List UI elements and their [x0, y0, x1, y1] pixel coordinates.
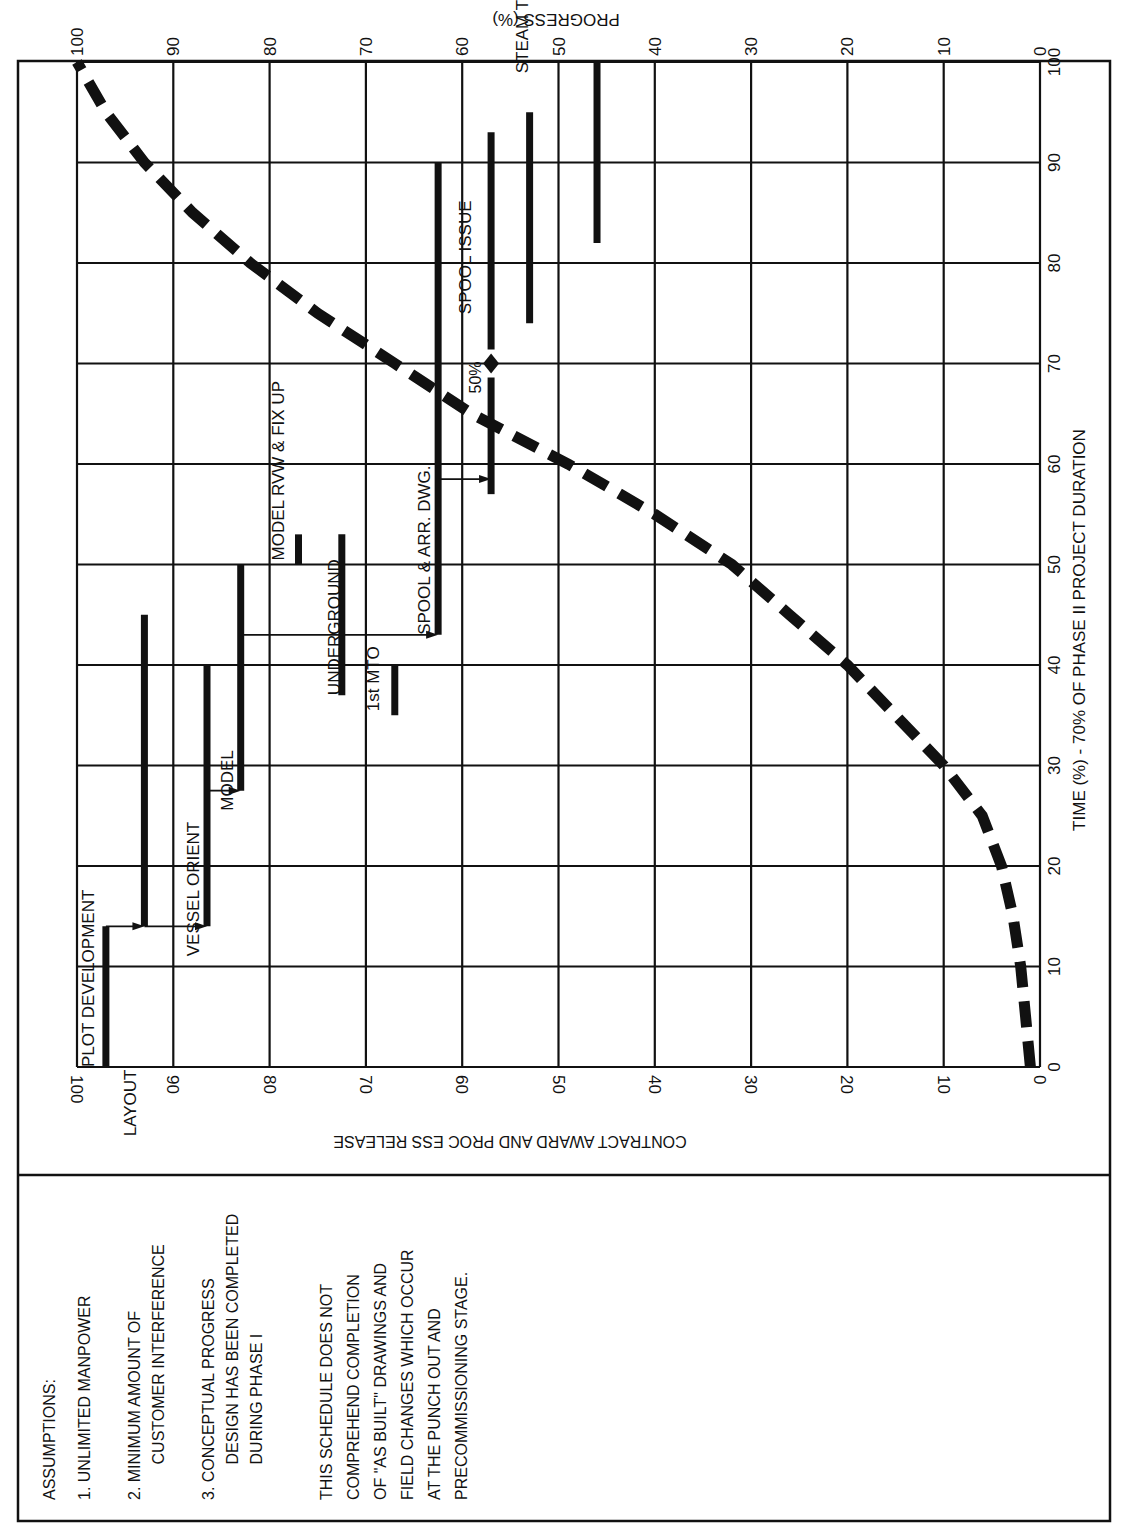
disclaimer-line: THIS SCHEDULE DOES NOT: [318, 1284, 335, 1500]
task-1st-mto: 1st MTO: [364, 646, 395, 715]
milestone-diamond-icon: [483, 354, 499, 374]
progress-tick-bottom: 70: [356, 1075, 375, 1094]
time-tick: 70: [1045, 354, 1064, 373]
task-label: SPOOL ISSUE: [456, 200, 475, 314]
disclaimer-line: AT THE PUNCH OUT AND: [426, 1308, 443, 1500]
progress-tick-top: 40: [646, 37, 665, 56]
time-tick: 90: [1045, 153, 1064, 172]
axis-labels: PROGRESS (%)TIME (%) - 70% OF PHASE II P…: [333, 10, 1089, 1150]
progress-tick-bottom: 100: [67, 1075, 86, 1103]
task-underground: UNDERGROUND: [325, 534, 344, 695]
time-tick: 10: [1045, 957, 1064, 976]
task-model-rvw-fix-up: MODEL RVW & FIX UP: [269, 381, 298, 564]
progress-tick-bottom: 60: [452, 1075, 471, 1094]
progress-tick-bottom: 10: [934, 1075, 953, 1094]
progress-tick-bottom: 30: [741, 1075, 760, 1094]
task-label: 1st MTO: [364, 646, 383, 711]
assumption-item: CUSTOMER INTERFERENCE: [150, 1244, 167, 1500]
progress-tick-top: 100: [68, 28, 87, 56]
time-tick: 60: [1045, 455, 1064, 474]
task-vessel-orient: VESSEL ORIENT: [184, 665, 207, 956]
task-label: VESSEL ORIENT: [184, 822, 203, 956]
milestone-label: 50%: [467, 361, 484, 393]
progress-tick-top: 30: [742, 37, 761, 56]
time-tick: 50: [1045, 555, 1064, 574]
task-label: MODEL RVW & FIX UP: [269, 381, 288, 560]
progress-tick-top: 90: [164, 37, 183, 56]
task-model: MODEL: [218, 565, 241, 811]
task-label: MODEL: [218, 750, 237, 810]
progress-axis-label: PROGRESS (%): [492, 10, 620, 29]
contract-award-label: CONTRACT AWARD AND PROC ESS RELEASE: [333, 1133, 686, 1150]
task-label: PLOT DEVELOPMENT: [79, 890, 98, 1067]
assumption-item: 2. MINIMUM AMOUNT OF: [126, 1311, 143, 1500]
disclaimer-line: FIELD CHANGES WHICH OCCUR: [399, 1249, 416, 1500]
assumption-item: 1. UNLIMITED MANPOWER: [76, 1296, 93, 1500]
progress-tick-top: 10: [935, 37, 954, 56]
progress-chart: 1001009090808070706060505040403030202010…: [0, 0, 1136, 1536]
task-job-clean-up-of-engineering-holds: JOB CLEAN UP OF ENGINEERING HOLDS: [564, 0, 597, 243]
assumptions-notes: ASSUMPTIONS:1. UNLIMITED MANPOWER2. MINI…: [41, 1214, 470, 1500]
progress-tick-bottom: 40: [645, 1075, 664, 1094]
time-tick: 80: [1045, 254, 1064, 273]
disclaimer-line: OF "AS BUILT" DRAWINGS AND: [372, 1263, 389, 1500]
disclaimer-line: PRECOMMISSIONING STAGE.: [453, 1272, 470, 1500]
disclaimer-line: COMPREHEND COMPLETION: [345, 1274, 362, 1500]
time-tick: 20: [1045, 857, 1064, 876]
time-tick: 100: [1045, 48, 1064, 76]
outer-frame: [18, 61, 1110, 1521]
progress-tick-bottom: 80: [260, 1075, 279, 1094]
progress-tick-top: 80: [261, 37, 280, 56]
time-tick: 0: [1045, 1062, 1064, 1071]
assumption-item: DESIGN HAS BEEN COMPLETED: [224, 1214, 241, 1500]
progress-tick-bottom: 20: [837, 1075, 856, 1094]
task-label: SPOOL & ARR. DWG.: [415, 465, 434, 634]
time-tick: 40: [1045, 656, 1064, 675]
task-label: LAYOUT: [121, 1070, 140, 1137]
progress-tick-top: 20: [838, 37, 857, 56]
task-spool-arr-dwg-: SPOOL & ARR. DWG.: [415, 163, 438, 635]
task-plot-development: PLOT DEVELOPMENT: [79, 890, 106, 1067]
progress-tick-bottom: 0: [1030, 1075, 1049, 1084]
task-layout: LAYOUT: [121, 615, 144, 1137]
grid: [77, 62, 1040, 1067]
progress-tick-top: 60: [453, 37, 472, 56]
time-tick: 30: [1045, 756, 1064, 775]
progress-tick-bottom: 90: [163, 1075, 182, 1094]
assumption-item: 3. CONCEPTUAL PROGRESS: [200, 1278, 217, 1500]
task-label: UNDERGROUND: [325, 559, 344, 695]
progress-tick-top: 50: [550, 37, 569, 56]
assumptions-heading: ASSUMPTIONS:: [41, 1379, 58, 1500]
assumption-item: DURING PHASE I: [248, 1334, 265, 1500]
time-axis-label: TIME (%) - 70% OF PHASE II PROJECT DURAT…: [1070, 429, 1089, 831]
progress-tick-bottom: 50: [549, 1075, 568, 1094]
progress-tick-top: 70: [357, 37, 376, 56]
